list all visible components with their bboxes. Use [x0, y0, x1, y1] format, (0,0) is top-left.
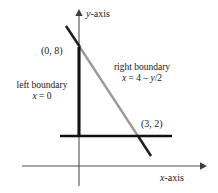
- left-boundary-equation: x = 0: [6, 91, 78, 102]
- left-boundary-title: left boundary: [6, 80, 78, 91]
- point-label-3-2: (3, 2): [141, 118, 163, 130]
- point-label-0-8: (0, 8): [41, 45, 63, 57]
- right-boundary-line-top-accent: [66, 26, 80, 47]
- y-axis-label: y-axis: [86, 8, 110, 20]
- y-axis-arrowhead: [75, 9, 82, 16]
- right-boundary-annotation: right boundary x = 4 – y/2: [103, 62, 181, 84]
- left-boundary-annotation: left boundary x = 0: [6, 80, 78, 102]
- x-axis-arrowhead: [200, 162, 207, 169]
- right-boundary-equation: x = 4 – y/2: [103, 73, 181, 84]
- right-boundary-equation-tail: /2: [155, 73, 162, 83]
- x-axis-label: x-axis: [160, 172, 184, 184]
- right-boundary-line-bottom-accent: [138, 136, 151, 156]
- x-axis-label-suffix: -axis: [164, 172, 183, 183]
- right-boundary-title: right boundary: [103, 62, 181, 73]
- math-figure: y-axis x-axis (0, 8) (3, 2) left boundar…: [0, 0, 218, 193]
- right-boundary-equation-middle: = 4 –: [126, 73, 150, 83]
- left-boundary-equation-rest: = 0: [37, 91, 52, 101]
- y-axis-label-suffix: -axis: [90, 8, 109, 19]
